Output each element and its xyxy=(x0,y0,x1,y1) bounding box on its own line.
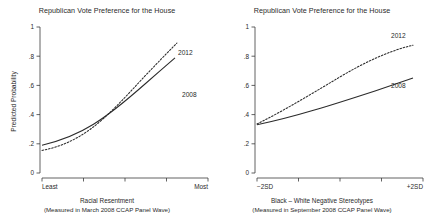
y-tick-label-02-left: .2 xyxy=(29,140,35,147)
y-tick-label-06-right: .6 xyxy=(244,82,250,89)
panel-left-x-axis-subtitle: (Measured in March 2008 CCAP Panel Wave) xyxy=(0,206,214,214)
x-tick-label-most: Most xyxy=(194,183,208,190)
chart-panel-left: Republican Vote Preference for the House… xyxy=(0,0,214,222)
series-line-2008-left xyxy=(42,58,175,146)
y-tick-label-0-right: 0 xyxy=(245,169,249,176)
y-tick-label-02-right: .2 xyxy=(244,140,250,147)
panel-right-x-axis-caption: Black – White Negative Stereotypes (Meas… xyxy=(215,197,429,214)
series-line-2008-right xyxy=(257,78,413,125)
y-tick-label-04-right: .4 xyxy=(244,111,250,118)
panel-left-y-axis-title: Predicted Probability xyxy=(10,56,17,148)
x-tick-label-plus2sd: +2SD xyxy=(407,183,424,190)
panel-left-x-axis-title: Racial Resentment xyxy=(0,197,214,205)
y-tick-label-1-right: 1 xyxy=(245,23,249,30)
panel-left-x-axis-caption: Racial Resentment (Measured in March 200… xyxy=(0,197,214,214)
figure-two-panel-chart: Republican Vote Preference for the House… xyxy=(0,0,429,222)
panel-right-x-axis-subtitle: (Measured in September 2008 CCAP Panel W… xyxy=(215,206,429,214)
series-label-2012-left: 2012 xyxy=(178,49,193,56)
y-tick-label-08-left: .8 xyxy=(29,53,35,60)
panel-right-x-axis-title: Black – White Negative Stereotypes xyxy=(215,197,429,205)
series-label-2008-left: 2008 xyxy=(182,91,197,98)
y-tick-label-06-left: .6 xyxy=(29,82,35,89)
series-line-2012-right xyxy=(257,45,413,124)
panel-right-plot: 1 .8 .6 .4 .2 0 −2SD +2SD 2012 2008 xyxy=(215,0,429,222)
series-label-2008-right: 2008 xyxy=(391,82,406,89)
x-tick-label-least: Least xyxy=(42,183,58,190)
x-tick-label-minus2sd: −2SD xyxy=(257,183,274,190)
y-tick-label-04-left: .4 xyxy=(29,111,35,118)
panel-left-plot: 1 .8 .6 .4 .2 0 Least Most 2012 2008 xyxy=(0,0,214,222)
series-line-2012-left xyxy=(42,43,177,150)
y-tick-label-08-right: .8 xyxy=(244,53,250,60)
y-tick-label-1-left: 1 xyxy=(30,23,34,30)
series-label-2012-right: 2012 xyxy=(391,32,406,39)
y-tick-label-0-left: 0 xyxy=(30,169,34,176)
chart-panel-right: Republican Vote Preference for the House… xyxy=(215,0,429,222)
